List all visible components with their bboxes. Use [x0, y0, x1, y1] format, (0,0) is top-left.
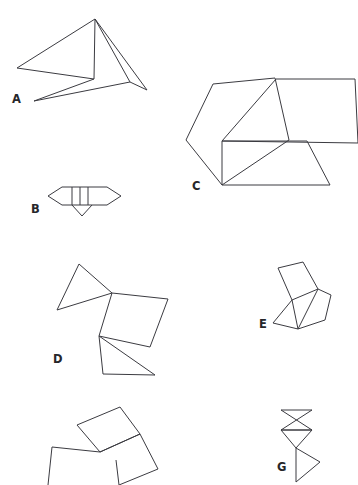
- figure-label-a: A: [12, 92, 21, 106]
- figure-label-b: B: [31, 202, 40, 216]
- figure-label-d: D: [53, 352, 63, 366]
- figure-canvas: A B C D E G: [0, 0, 358, 485]
- figure-label-e: E: [259, 317, 267, 331]
- figure-label-g: G: [277, 460, 286, 474]
- figure-label-c: C: [192, 179, 200, 193]
